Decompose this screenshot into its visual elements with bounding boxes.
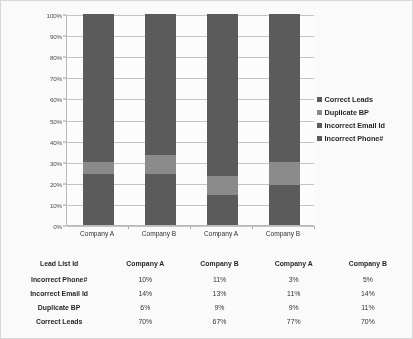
y-axis-tick-mark — [63, 226, 66, 227]
bar-segment — [83, 162, 114, 175]
x-axis-tick-label: Company B — [248, 230, 318, 237]
table-cell: 11% — [257, 286, 331, 300]
table-row-label: Incorrect Phone# — [10, 272, 108, 286]
bar-column — [207, 14, 238, 225]
chart-region: Correct LeadsDuplicate BPIncorrect Email… — [1, 1, 413, 249]
table-column-header: Company A — [257, 256, 331, 272]
table-cell: 11% — [182, 272, 256, 286]
y-axis-tick-mark — [63, 57, 66, 58]
table-column-header: Company B — [331, 256, 405, 272]
bar-segment — [269, 14, 300, 162]
chart-page: Correct LeadsDuplicate BPIncorrect Email… — [0, 0, 413, 339]
y-axis-tick-label: 0% — [28, 223, 62, 230]
legend-item[interactable]: Incorrect Phone# — [317, 132, 412, 145]
bar-segment — [145, 202, 176, 225]
table-cell: 9% — [257, 300, 331, 314]
bar-segment — [269, 162, 300, 185]
bar-segment — [207, 176, 238, 195]
table-column-header: Company B — [182, 256, 256, 272]
table-header-row: Lead List IdCompany ACompany BCompany AC… — [10, 256, 405, 272]
y-axis-tick-label: 40% — [28, 138, 62, 145]
bar-segment — [207, 219, 238, 225]
y-axis-tick-mark — [63, 141, 66, 142]
y-axis-tick-mark — [63, 99, 66, 100]
bar-segment — [207, 195, 238, 218]
legend-item-label: Correct Leads — [325, 95, 373, 104]
bar-column — [83, 14, 114, 225]
table-row: Correct Leads70%67%77%70% — [10, 314, 405, 328]
x-axis-tick-mark — [128, 226, 129, 229]
x-axis-tick-label: Company B — [124, 230, 194, 237]
table-cell: 77% — [257, 314, 331, 328]
table-cell: 11% — [331, 300, 405, 314]
y-axis-tick-label: 50% — [28, 117, 62, 124]
x-axis-tick-mark — [252, 226, 253, 229]
y-axis-tick-label: 90% — [28, 33, 62, 40]
data-table: Lead List IdCompany ACompany BCompany AC… — [10, 256, 405, 328]
bar-segment — [269, 214, 300, 225]
legend-item-label: Incorrect Phone# — [325, 134, 384, 143]
bar-segment — [83, 204, 114, 225]
table-cell: 3% — [257, 272, 331, 286]
y-axis-tick-mark — [63, 36, 66, 37]
table-row-label: Incorrect Email Id — [10, 286, 108, 300]
table-row: Duplicate BP6%9%9%11% — [10, 300, 405, 314]
legend-swatch-icon — [317, 97, 322, 102]
bar-segment — [83, 174, 114, 204]
y-axis-tick-mark — [63, 120, 66, 121]
table-column-header: Company A — [108, 256, 182, 272]
y-axis-tick-mark — [63, 162, 66, 163]
legend-swatch-icon — [317, 123, 322, 128]
x-axis-tick-mark — [190, 226, 191, 229]
x-axis-tick-mark — [314, 226, 315, 229]
table-row-label: Correct Leads — [10, 314, 108, 328]
y-axis-tick-mark — [63, 78, 66, 79]
table-row-label: Duplicate BP — [10, 300, 108, 314]
bar-segment — [269, 185, 300, 215]
y-axis-tick-label: 10% — [28, 201, 62, 208]
y-axis-tick-label: 70% — [28, 75, 62, 82]
legend-swatch-icon — [317, 136, 322, 141]
chart-legend: Correct LeadsDuplicate BPIncorrect Email… — [317, 93, 412, 145]
plot-area — [66, 15, 314, 226]
y-axis-tick-label: 20% — [28, 180, 62, 187]
table-cell: 6% — [108, 300, 182, 314]
table-cell: 10% — [108, 272, 182, 286]
bar-column — [269, 14, 300, 225]
table-cell: 14% — [331, 286, 405, 300]
table-row: Incorrect Phone#10%11%3%5% — [10, 272, 405, 286]
table-corner-header: Lead List Id — [10, 256, 108, 272]
legend-item-label: Incorrect Email Id — [325, 121, 385, 130]
legend-swatch-icon — [317, 110, 322, 115]
table-cell: 70% — [331, 314, 405, 328]
bar-segment — [207, 14, 238, 176]
legend-item[interactable]: Duplicate BP — [317, 106, 412, 119]
y-axis-tick-mark — [63, 15, 66, 16]
legend-item[interactable]: Incorrect Email Id — [317, 119, 412, 132]
legend-item[interactable]: Correct Leads — [317, 93, 412, 106]
y-axis-tick-label: 30% — [28, 159, 62, 166]
table-body: Incorrect Phone#10%11%3%5%Incorrect Emai… — [10, 272, 405, 328]
table-cell: 70% — [108, 314, 182, 328]
y-axis-tick-mark — [63, 204, 66, 205]
y-axis-tick-label: 100% — [28, 12, 62, 19]
y-axis-tick-label: 60% — [28, 96, 62, 103]
x-axis-tick-label: Company A — [62, 230, 132, 237]
data-table-region: Lead List IdCompany ACompany BCompany AC… — [1, 256, 413, 338]
bar-segment — [145, 155, 176, 174]
legend-item-label: Duplicate BP — [325, 108, 369, 117]
table-cell: 5% — [331, 272, 405, 286]
y-axis-tick-mark — [63, 183, 66, 184]
table-cell: 13% — [182, 286, 256, 300]
table-cell: 67% — [182, 314, 256, 328]
table-cell: 14% — [108, 286, 182, 300]
x-axis-tick-label: Company A — [186, 230, 256, 237]
table-row: Incorrect Email Id14%13%11%14% — [10, 286, 405, 300]
bar-segment — [83, 14, 114, 162]
bar-segment — [145, 14, 176, 155]
bar-segment — [145, 174, 176, 201]
bar-column — [145, 14, 176, 225]
table-cell: 9% — [182, 300, 256, 314]
y-axis-tick-label: 80% — [28, 54, 62, 61]
